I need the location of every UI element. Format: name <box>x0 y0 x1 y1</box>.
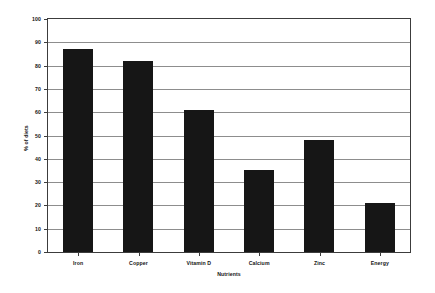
bar[interactable] <box>304 140 334 252</box>
xaxis-title: Nutrients <box>47 271 411 277</box>
ytick-label: 0 <box>38 249 41 255</box>
bar-slot <box>108 19 168 252</box>
ytick-label: 50 <box>35 133 41 139</box>
ytick-label: 10 <box>35 226 41 232</box>
xtick-mark <box>139 252 140 256</box>
bar-slot <box>350 19 410 252</box>
bar-chart-figure: 0102030405060708090100 IronCopperVitamin… <box>0 0 435 293</box>
xtick-mark <box>320 252 321 256</box>
xtick-label: Vitamin D <box>186 260 211 266</box>
bar-slot <box>229 19 289 252</box>
bar-slot <box>169 19 229 252</box>
xtick-label: Energy <box>371 260 389 266</box>
xtick-mark <box>199 252 200 256</box>
bar[interactable] <box>244 170 274 252</box>
ytick-label: 100 <box>32 16 41 22</box>
ytick-label: 40 <box>35 156 41 162</box>
ytick-label: 60 <box>35 109 41 115</box>
bar-slot <box>289 19 349 252</box>
ytick-label: 70 <box>35 86 41 92</box>
bar[interactable] <box>365 203 395 252</box>
xtick-label: Iron <box>73 260 83 266</box>
bar[interactable] <box>123 61 153 252</box>
xtick-label: Zinc <box>314 260 325 266</box>
ytick-label: 90 <box>35 39 41 45</box>
xtick-mark <box>78 252 79 256</box>
xtick-mark <box>259 252 260 256</box>
plot-area: 0102030405060708090100 IronCopperVitamin… <box>47 18 411 253</box>
xtick-label: Calcium <box>249 260 270 266</box>
yaxis-title: % of diets <box>23 125 29 151</box>
xtick-mark <box>380 252 381 256</box>
bars-layer <box>48 19 410 252</box>
bar-slot <box>48 19 108 252</box>
ytick-label: 20 <box>35 202 41 208</box>
bar[interactable] <box>184 110 214 252</box>
ytick-label: 30 <box>35 179 41 185</box>
bar[interactable] <box>63 49 93 252</box>
xtick-label: Copper <box>129 260 148 266</box>
ytick-mark <box>44 252 48 253</box>
ytick-label: 80 <box>35 63 41 69</box>
